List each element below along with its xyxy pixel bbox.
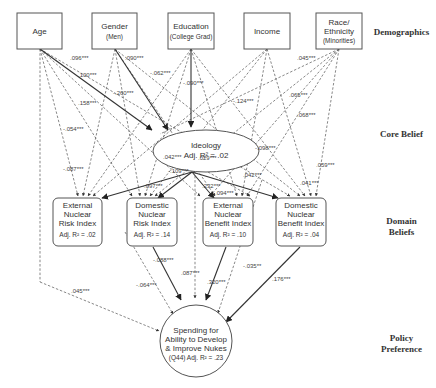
level-domain-beliefs: Domain Beliefs	[367, 216, 436, 238]
coef-label: .065***	[289, 92, 308, 98]
coef-label: .320***	[207, 279, 226, 285]
node-income-label: Income	[254, 27, 281, 36]
node-ideology: Ideology Adj. R² = .02	[153, 130, 259, 172]
coef-label: .068***	[297, 112, 316, 118]
coef-label: .087***	[181, 270, 200, 276]
node-education-sublabel: (College Grad)	[170, 33, 213, 41]
node-dom-benefit-line2: Nuclear	[287, 210, 315, 219]
node-race-label-2: Ethnicity	[324, 27, 354, 36]
coef-label: -.087***	[63, 166, 84, 172]
coef-label: .029***	[198, 155, 217, 161]
level-policy-line2: Preference	[367, 344, 436, 355]
level-policy-preference: Policy Preference	[367, 333, 436, 355]
coef-label: -.088***	[153, 257, 174, 263]
node-ext-risk-line3: Risk Index	[59, 219, 96, 228]
level-core-belief-label: Core Belief	[380, 129, 423, 139]
coef-label: -.094***	[213, 190, 234, 196]
solid-paths	[40, 49, 300, 322]
node-gender: Gender (Men)	[92, 13, 137, 49]
node-dom-benefit-line1: Domestic	[284, 201, 317, 210]
coef-label: -.098***	[255, 145, 276, 151]
node-dom-risk-line2: Nuclear	[138, 210, 166, 219]
node-outcome: Spending for Ability to Develop & Improv…	[160, 305, 232, 377]
node-gender-label: Gender	[101, 22, 128, 31]
node-ext-risk-line2: Nuclear	[64, 210, 92, 219]
coef-label: -.054***	[63, 126, 84, 132]
node-dom-risk-line3: Risk Index	[133, 219, 170, 228]
coef-label: .045***	[297, 55, 316, 61]
node-race-sublabel: (Minorities)	[323, 37, 355, 45]
node-ext-risk: External Nuclear Risk Index Adj. R² = .0…	[53, 198, 102, 246]
coef-label: -.109***	[168, 168, 189, 174]
node-race: Race/ Ethnicity (Minorities)	[316, 13, 362, 49]
coef-label: .232***	[202, 183, 221, 189]
node-ideology-label: Ideology	[191, 141, 221, 150]
node-age-label: Age	[32, 27, 47, 36]
node-dom-benefit-r2: Adj. R² = .04	[283, 231, 320, 239]
node-outcome-line3: & Improve Nukes	[165, 344, 226, 353]
coef-label: .042***	[243, 172, 262, 178]
node-dom-risk-r2: Adj. R² = .14	[134, 231, 171, 239]
node-ext-benefit-line2: Nuclear	[214, 210, 242, 219]
coef-label: .042***	[163, 154, 182, 160]
level-policy-line1: Policy	[367, 333, 436, 344]
coef-label: .096***	[70, 55, 89, 61]
node-gender-sublabel: (Men)	[106, 33, 123, 41]
coef-label: -.035**	[243, 263, 262, 269]
level-domain-line1: Domain	[367, 216, 436, 227]
node-dom-benefit: Domestic Nuclear Benefit Index Adj. R² =…	[276, 198, 326, 246]
coef-label: .100***	[78, 72, 97, 78]
coef-label: .158***	[78, 100, 97, 106]
node-outcome-r2: (Q44) Adj. R² = .23	[169, 354, 224, 362]
node-race-label: Race/	[329, 18, 351, 27]
coef-label: -.062***	[150, 70, 171, 76]
node-dom-risk: Domestic Nuclear Risk Index Adj. R² = .1…	[127, 198, 177, 246]
node-age: Age	[17, 13, 62, 49]
coef-label: -.124***	[233, 98, 254, 104]
level-demographics-label: Demographics	[374, 27, 430, 37]
node-income: Income	[244, 13, 290, 49]
node-outcome-line2: Ability to Develop	[165, 335, 227, 344]
node-ext-risk-r2: Adj. R² = .02	[59, 231, 96, 239]
node-ext-benefit-line1: External	[213, 201, 243, 210]
coef-label: .041***	[300, 180, 319, 186]
node-outcome-line1: Spending for	[173, 326, 219, 335]
coef-label: -.090***	[183, 80, 204, 86]
coef-label: .176***	[272, 276, 291, 282]
coef-label: -.097***	[142, 183, 163, 189]
coef-label: .045***	[71, 288, 90, 294]
level-domain-line2: Beliefs	[367, 227, 436, 238]
coef-label: .090***	[125, 55, 144, 61]
node-ext-benefit: External Nuclear Benefit Index Adj. R² =…	[203, 198, 253, 246]
node-ext-benefit-r2: Adj. R² = .10	[210, 231, 247, 239]
node-dom-risk-line1: Domestic	[135, 201, 168, 210]
node-education-label: Education	[173, 22, 209, 31]
level-demographics: Demographics	[367, 27, 436, 37]
level-core-belief: Core Belief	[367, 129, 436, 139]
node-education: Education (College Grad)	[168, 13, 214, 49]
coef-label: -.260***	[113, 90, 134, 96]
node-ext-risk-line1: External	[63, 201, 93, 210]
coef-label: .059***	[316, 162, 335, 168]
coef-label: -.064***	[136, 282, 157, 288]
node-ext-benefit-line3: Benefit Index	[205, 219, 252, 228]
path-diagram: Age Gender (Men) Education (College Grad…	[0, 0, 436, 388]
node-dom-benefit-line3: Benefit Index	[278, 219, 325, 228]
